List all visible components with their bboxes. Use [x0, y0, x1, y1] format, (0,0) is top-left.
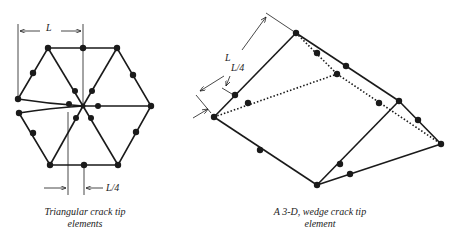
caption-triangular-line1: Triangular crack tip [10, 206, 160, 218]
caption-triangular-line2: elements [10, 218, 160, 230]
caption-wedge-line2: element [255, 218, 385, 230]
diagram-canvas [0, 0, 454, 237]
caption-wedge: A 3-D, wedge crack tip element [255, 206, 385, 230]
wedge-solid-edges [214, 33, 441, 185]
dim-label-L-left: L [46, 22, 52, 33]
wedge-hidden-edges [214, 33, 441, 144]
dim-label-L4-left: L/4 [106, 182, 119, 193]
dim-label-L-right: L [225, 52, 231, 63]
caption-wedge-line1: A 3-D, wedge crack tip [255, 206, 385, 218]
caption-triangular: Triangular crack tip elements [10, 206, 160, 230]
dim-label-L4-right: L/4 [231, 62, 244, 73]
triangular-dimensions [18, 24, 103, 195]
